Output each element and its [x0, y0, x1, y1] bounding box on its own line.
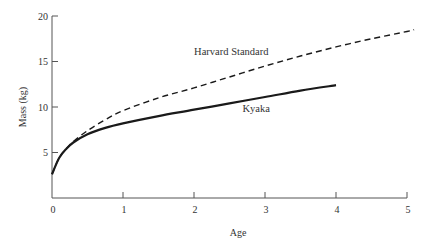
series-annotation: Harvard Standard [194, 46, 269, 57]
x-tick-label: 2 [193, 204, 198, 215]
y-tick-label: 10 [38, 102, 48, 113]
x-tick-label: 1 [122, 204, 127, 215]
x-tick-label: 5 [406, 204, 411, 215]
x-tick-label: 0 [51, 204, 56, 215]
y-tick-label: 20 [38, 11, 48, 22]
y-tick-label: 5 [43, 147, 48, 158]
y-tick-label: 15 [38, 56, 48, 67]
x-tick-label: 4 [335, 204, 340, 215]
x-tick-label: 3 [264, 204, 269, 215]
series-annotation: Kyaka [242, 103, 270, 114]
growth-chart: 5101520012345AgeMass (kg) Harvard Standa… [0, 0, 424, 249]
series-line-kyaka [52, 85, 336, 174]
y-axis-label: Mass (kg) [17, 87, 29, 127]
x-axis-label: Age [230, 227, 247, 238]
